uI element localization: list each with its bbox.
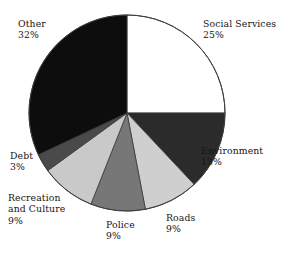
slice-label-percent: 9% [166, 223, 195, 234]
slice-label-debt: Debt 3% [10, 150, 33, 173]
pie-chart: Social Services 25% Environment 13% Road… [0, 0, 290, 254]
slice-label-name: Debt [10, 150, 33, 161]
slice-label-name-line1: Recreation [8, 192, 61, 203]
slice-label-name: Police [106, 219, 135, 230]
slice-label-name: Social Services [203, 18, 276, 29]
slice-label-social-services: Social Services 25% [203, 18, 276, 41]
slice-label-other: Other 32% [18, 18, 46, 41]
slice-label-percent: 9% [8, 215, 65, 226]
pie-slices-group [29, 15, 225, 211]
slice-label-name: Environment [201, 145, 263, 156]
slice-label-name: Other [18, 18, 46, 29]
slice-label-roads: Roads 9% [166, 212, 195, 235]
slice-label-environment: Environment 13% [201, 145, 263, 168]
slice-label-police: Police 9% [106, 219, 135, 242]
slice-label-percent: 32% [18, 29, 46, 40]
slice-label-recreation-and-culture: Recreation and Culture 9% [8, 192, 65, 226]
slice-label-percent: 9% [106, 230, 135, 241]
slice-label-name-line2: and Culture [8, 203, 65, 214]
slice-label-percent: 13% [201, 156, 263, 167]
slice-label-percent: 25% [203, 29, 276, 40]
slice-label-percent: 3% [10, 161, 33, 172]
slice-label-name: Roads [166, 212, 195, 223]
